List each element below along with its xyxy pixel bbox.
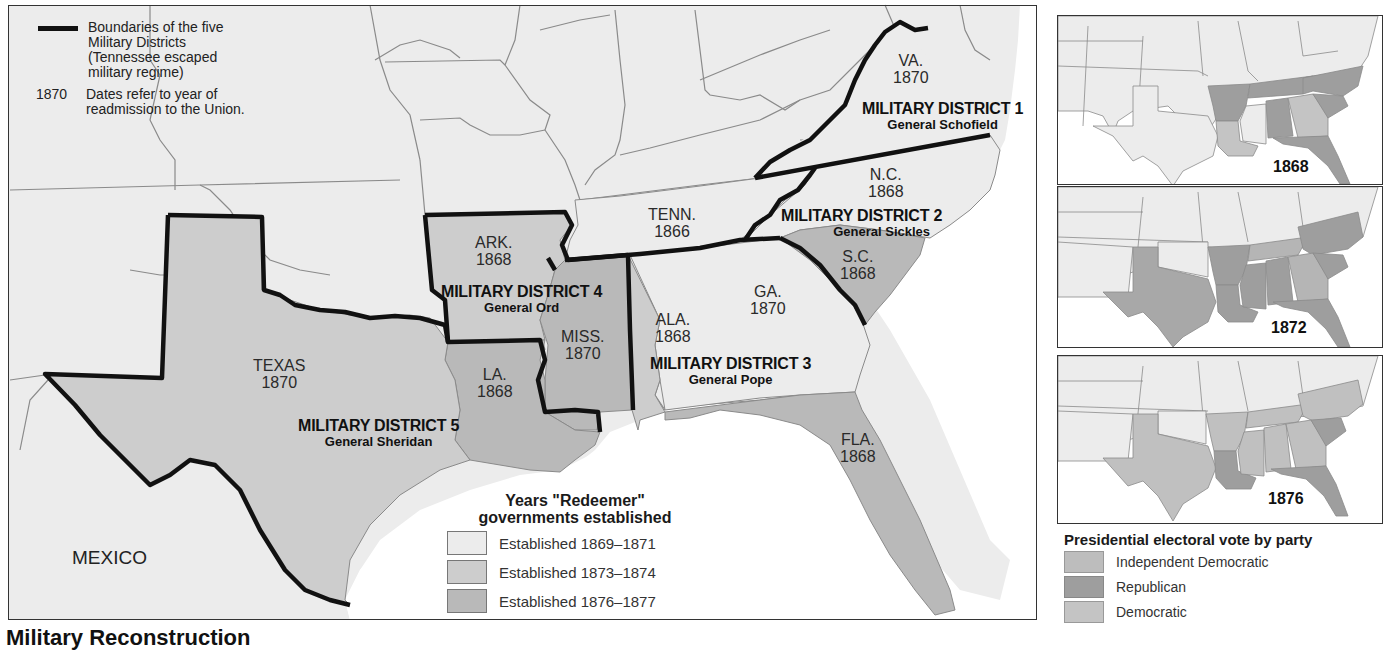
inset-1876: 1876 [1057,355,1383,524]
party-legend: Presidential electoral vote by party Ind… [1064,531,1384,623]
inset-map-1876 [1058,356,1382,523]
party-legend-item: Democratic [1064,601,1384,623]
legend-label: Republican [1116,579,1186,595]
swatch-independent-democratic [1064,551,1104,573]
party-legend-title: Presidential electoral vote by party [1064,531,1384,548]
swatch-republican [1064,576,1104,598]
main-map-frame [8,5,1037,620]
inset-1868: 1868 [1057,15,1383,185]
party-legend-item: Republican [1064,576,1384,598]
figure-caption: Military Reconstruction [6,626,250,650]
inset-map-1868 [1058,16,1382,184]
inset-year-label: 1868 [1273,158,1309,176]
legend-label: Independent Democratic [1116,554,1269,570]
inset-map-1872 [1058,187,1382,347]
party-legend-item: Independent Democratic [1064,551,1384,573]
swatch-democratic [1064,601,1104,623]
inset-year-label: 1876 [1268,490,1304,508]
legend-label: Democratic [1116,604,1187,620]
inset-1872: 1872 [1057,186,1383,348]
inset-year-label: 1872 [1271,319,1307,337]
